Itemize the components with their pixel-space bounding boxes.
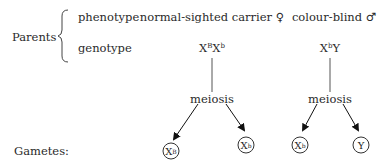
gamete-father-Y: Y	[353, 137, 370, 154]
gamete-mother-XB: XB	[163, 143, 180, 160]
male-symbol-icon: ♂	[366, 10, 376, 24]
female-symbol-icon: ♀	[276, 10, 284, 24]
father-genotype: XbY	[320, 43, 340, 55]
genotype-label: genotype	[78, 43, 132, 55]
gametes-label: Gametes:	[14, 146, 69, 158]
mother-meiosis: meiosis	[190, 94, 234, 106]
father-meiosis: meiosis	[308, 94, 352, 106]
diagram-lines	[0, 0, 390, 164]
phenotype-label: phenotype	[78, 12, 139, 24]
gamete-father-Xb: Xb	[292, 137, 309, 154]
mother-genotype: XBXb	[199, 43, 225, 55]
mother-phenotype: normal-sighted carrier ♀	[140, 12, 284, 24]
father-phenotype: colour-blind ♂	[292, 12, 376, 24]
gamete-mother-Xb: Xb	[238, 137, 255, 154]
brace-icon	[58, 10, 68, 62]
